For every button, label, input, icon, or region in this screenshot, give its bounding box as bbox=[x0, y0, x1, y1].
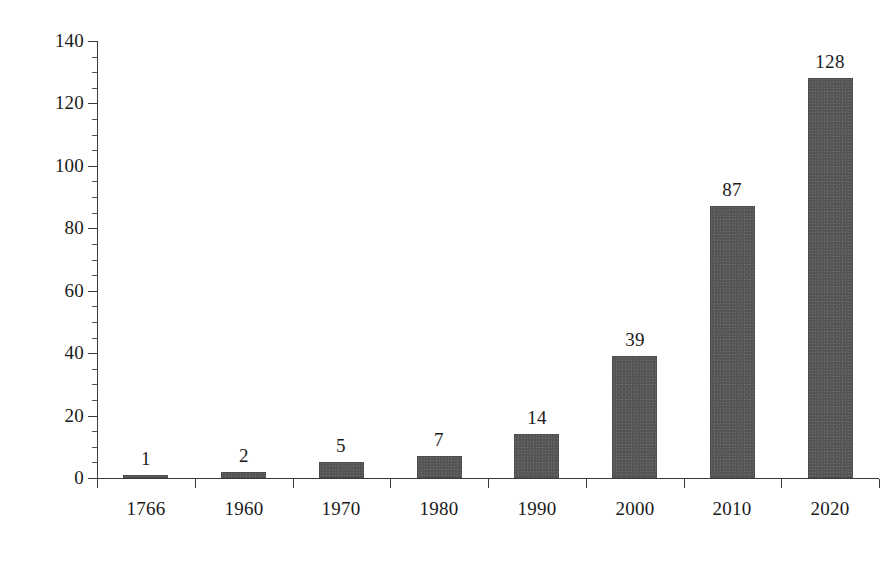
bar bbox=[514, 434, 559, 478]
y-axis-tick-label-wrap: 40 bbox=[0, 343, 84, 362]
y-axis-tick-label: 80 bbox=[38, 218, 84, 237]
bar bbox=[710, 206, 755, 478]
x-axis-tick bbox=[488, 479, 489, 488]
bar-chart: 020406080100120140 176619601970198019902… bbox=[0, 0, 895, 564]
bar-value-label: 14 bbox=[489, 408, 585, 428]
bar bbox=[221, 472, 266, 478]
x-axis-tick-label: 2000 bbox=[587, 498, 683, 520]
plot-area bbox=[97, 41, 879, 478]
y-axis-tick bbox=[88, 228, 97, 229]
x-axis-tick bbox=[781, 479, 782, 488]
bar-value-label: 7 bbox=[391, 430, 487, 450]
bar-value-label: 1 bbox=[98, 449, 194, 469]
y-axis-tick bbox=[88, 353, 97, 354]
y-axis-tick-label: 0 bbox=[38, 468, 84, 487]
y-axis-tick bbox=[88, 166, 97, 167]
y-axis-tick-label: 140 bbox=[38, 31, 84, 50]
x-axis-tick-label: 1960 bbox=[196, 498, 292, 520]
bar-value-label: 2 bbox=[196, 446, 292, 466]
x-axis-tick bbox=[684, 479, 685, 488]
y-axis-tick bbox=[88, 103, 97, 104]
x-axis-tick bbox=[586, 479, 587, 488]
x-axis-tick bbox=[879, 479, 880, 488]
y-axis-tick-label-wrap: 20 bbox=[0, 406, 84, 425]
x-axis-tick bbox=[195, 479, 196, 488]
y-axis-tick-label-wrap: 0 bbox=[0, 468, 84, 487]
y-axis-tick bbox=[88, 291, 97, 292]
bar bbox=[417, 456, 462, 478]
x-axis-tick bbox=[293, 479, 294, 488]
y-axis-tick-label-wrap: 120 bbox=[0, 93, 84, 112]
x-axis-tick-label: 1970 bbox=[293, 498, 389, 520]
chart-title bbox=[0, 0, 1, 1]
bar bbox=[808, 78, 853, 478]
bar-value-label: 39 bbox=[587, 330, 683, 350]
y-axis-tick-label-wrap: 60 bbox=[0, 281, 84, 300]
x-axis-tick-label: 2020 bbox=[782, 498, 878, 520]
y-axis-tick bbox=[88, 416, 97, 417]
x-axis-tick-label: 1990 bbox=[489, 498, 585, 520]
bar-value-label: 87 bbox=[684, 180, 780, 200]
x-axis-tick bbox=[97, 479, 98, 488]
x-axis-tick-label: 2010 bbox=[684, 498, 780, 520]
y-axis-tick-label: 60 bbox=[38, 281, 84, 300]
y-axis-tick-label: 20 bbox=[38, 406, 84, 425]
bar-value-label: 5 bbox=[293, 436, 389, 456]
y-axis-tick-label-wrap: 100 bbox=[0, 156, 84, 175]
y-axis-tick-label-wrap: 80 bbox=[0, 218, 84, 237]
bar-value-label: 128 bbox=[782, 52, 878, 72]
y-axis-tick-label: 40 bbox=[38, 343, 84, 362]
x-axis-tick bbox=[390, 479, 391, 488]
y-axis-tick-label-wrap: 140 bbox=[0, 31, 84, 50]
bar bbox=[319, 462, 364, 478]
y-axis-tick bbox=[88, 41, 97, 42]
bar bbox=[612, 356, 657, 478]
bar bbox=[123, 475, 168, 478]
y-axis-tick-label: 120 bbox=[38, 93, 84, 112]
y-axis-tick-label: 100 bbox=[38, 156, 84, 175]
x-axis-tick-label: 1980 bbox=[391, 498, 487, 520]
x-axis-tick-label: 1766 bbox=[98, 498, 194, 520]
y-axis-tick bbox=[88, 478, 97, 479]
